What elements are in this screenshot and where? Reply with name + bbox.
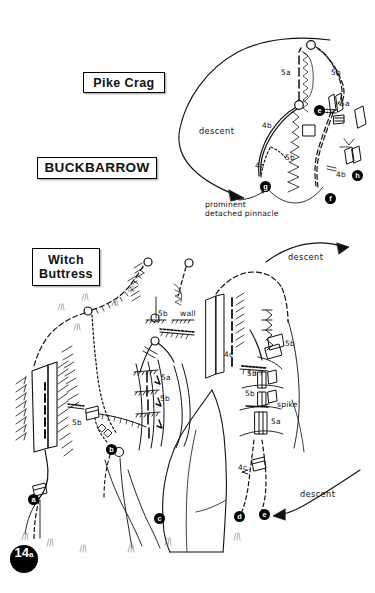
belay-marker-e[interactable]: e: [259, 509, 270, 520]
crack-hatching-upper: [303, 52, 313, 112]
pike-crag-heading-label: Pike Crag: [93, 76, 154, 90]
grade-label: 5b: [160, 394, 170, 403]
grade-label: 4b: [262, 121, 272, 130]
vegetation-tufts: [22, 286, 240, 552]
grade-label: 5b: [331, 68, 341, 77]
grade-label: 5b: [72, 418, 82, 427]
grade-label: 5a: [161, 373, 171, 382]
centre-pillar-group: [62, 315, 160, 548]
wall-label: wall: [180, 309, 196, 318]
topo-diagram: [0, 0, 375, 593]
witch-buttress-heading-line1: Witch: [48, 253, 84, 267]
left-wall-face: [16, 361, 73, 500]
descent-label: descent: [199, 126, 234, 136]
grade-label: 5b: [245, 389, 255, 398]
buckbarrow-heading: BUCKBARROW: [37, 157, 157, 179]
grade-label: 5b: [158, 309, 168, 318]
belay-marker-e[interactable]: e: [314, 105, 325, 116]
page-number-suffix: a: [29, 550, 33, 559]
pike-crag-heading: Pike Crag: [83, 72, 165, 93]
grade-label: 4c: [255, 161, 264, 170]
pinnacle-ridge-chevrons: [288, 112, 299, 192]
grade-label: 4b: [336, 170, 346, 179]
witch-buttress-heading-line2: Buttress: [39, 267, 93, 281]
grade-label: 5b: [285, 339, 295, 348]
belay-marker-a[interactable]: a: [28, 494, 39, 505]
descent-label-top: descent: [288, 252, 323, 262]
grade-label: 5a: [271, 417, 281, 426]
cliff-chevrons-upper: [128, 263, 144, 301]
guidebook-page: Pike Crag BUCKBARROW Witch Buttress 5a 5…: [0, 0, 375, 593]
buckbarrow-heading-label: BUCKBARROW: [44, 160, 149, 175]
grade-label: 5b: [247, 369, 257, 378]
grade-label: 5a: [340, 99, 350, 108]
pike-descent-arrow: [179, 38, 330, 201]
page-number-value: 14: [15, 545, 29, 560]
witch-buttress-heading: Witch Buttress: [32, 248, 100, 286]
grade-label: 4c: [224, 350, 233, 359]
descent-label-bottom: descent: [300, 489, 335, 499]
belay-marker-h[interactable]: h: [352, 170, 363, 181]
belay-marker-d[interactable]: d: [234, 511, 245, 522]
grade-label: 5b: [285, 153, 295, 162]
pinnacle-caption: prominent detached pinnacle: [205, 200, 279, 219]
belay-marker-g[interactable]: g: [260, 181, 271, 192]
grade-label: 4c: [238, 463, 247, 472]
belay-marker-c[interactable]: c: [154, 513, 165, 524]
spike-label: spike: [277, 400, 298, 409]
page-number-badge: 14a: [10, 545, 38, 573]
witch-buttress-topo: [16, 243, 360, 552]
belay-marker-f[interactable]: f: [325, 193, 336, 204]
belay-marker-b[interactable]: b: [106, 444, 117, 455]
grade-label: 5a: [281, 68, 291, 77]
pike-flakes-right: [303, 93, 366, 164]
big-buttress-outline: [163, 390, 227, 552]
